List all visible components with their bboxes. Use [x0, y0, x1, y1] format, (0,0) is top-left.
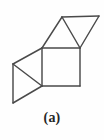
- left-upper-slant-edge: [13, 48, 42, 64]
- left-lower-slant-edge: [13, 86, 42, 103]
- upper-right-top-edge: [62, 16, 99, 17]
- left-middle-diagonal-edge: [13, 64, 42, 86]
- top-triangle-right-edge: [62, 17, 80, 48]
- figure-caption: (a): [0, 110, 104, 126]
- upper-right-slant-edge: [80, 16, 99, 48]
- net-edge-group: [13, 16, 99, 103]
- figure-container: (a): [0, 0, 104, 140]
- top-triangle-left-edge: [42, 17, 62, 48]
